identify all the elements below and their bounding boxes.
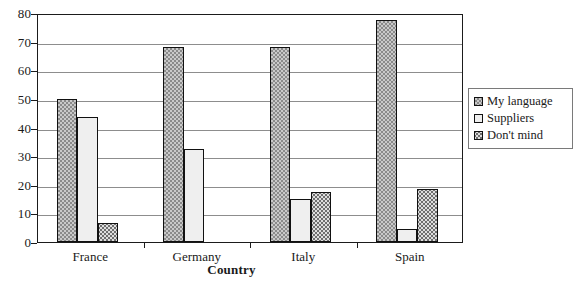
bar [184, 149, 205, 242]
bar [290, 199, 311, 242]
y-axis: 01020304050607080 [0, 0, 31, 286]
y-axis-tick-label: 50 [0, 93, 31, 106]
legend: My language Suppliers Don't mind [468, 88, 573, 149]
y-axis-tick-label: 70 [0, 36, 31, 49]
y-axis-tick-label: 20 [0, 179, 31, 192]
bar [77, 117, 98, 242]
bar [376, 20, 397, 242]
legend-label-dont-mind: Don't mind [487, 128, 543, 142]
bar [57, 99, 78, 242]
y-axis-tick-label: 30 [0, 150, 31, 163]
bars-layer [38, 15, 462, 242]
bar [98, 223, 119, 242]
legend-swatch-dont-mind [474, 131, 483, 140]
y-axis-tick-label: 80 [0, 7, 31, 20]
y-axis-tick-label: 40 [0, 122, 31, 135]
x-axis-tick [144, 243, 145, 248]
x-axis-tick [357, 243, 358, 248]
x-axis-tick [250, 243, 251, 248]
legend-label-suppliers: Suppliers [487, 111, 534, 125]
bar-chart: 01020304050607080 FranceGermanyItalySpai… [0, 0, 578, 286]
y-axis-tick-label: 60 [0, 64, 31, 77]
bar [417, 189, 438, 242]
legend-swatch-suppliers [474, 114, 483, 123]
y-axis-tick-label: 0 [0, 236, 31, 249]
legend-item-1[interactable]: Suppliers [474, 110, 568, 126]
legend-label-my-language: My language [487, 94, 553, 108]
bar [163, 47, 184, 242]
y-axis-tick-label: 10 [0, 207, 31, 220]
bar [270, 47, 291, 242]
plot-area [37, 14, 463, 243]
legend-item-0[interactable]: My language [474, 93, 568, 109]
legend-swatch-my-language [474, 97, 483, 106]
legend-item-2[interactable]: Don't mind [474, 127, 568, 143]
x-axis-title: Country [0, 262, 463, 278]
y-axis-tick [31, 243, 37, 244]
bar [311, 192, 332, 242]
bar [397, 229, 418, 242]
